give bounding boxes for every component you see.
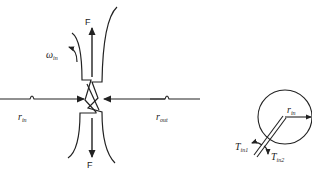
torque2-arrow — [264, 146, 268, 154]
r-in-label: rin — [18, 111, 27, 123]
force-bottom-label: F — [87, 160, 93, 170]
diagram-canvas: F F ωin rin rout rin Tin1 Tin2 — [0, 0, 312, 170]
omega-in-label: ωin — [46, 49, 58, 61]
force-top-label: F — [85, 17, 91, 27]
radius-label: rin — [287, 104, 296, 116]
angular-velocity-arrow — [69, 47, 77, 62]
torque1-arrow — [252, 142, 262, 145]
r-out-line-ext — [150, 96, 200, 99]
torque1-label: Tin1 — [235, 141, 248, 153]
torque2-label: Tin2 — [271, 151, 284, 163]
r-out-label: rout — [156, 111, 168, 123]
r-in-line — [0, 96, 84, 99]
